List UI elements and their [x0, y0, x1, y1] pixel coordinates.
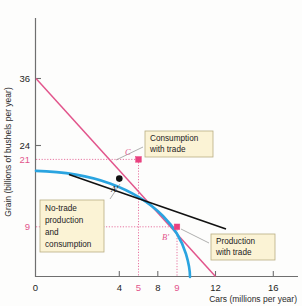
annotation-no-trade-line-4: consumption	[45, 240, 92, 249]
chart-canvas: C A' B' 36 24 21 9 0 4 5 8 9 12 16 Cars …	[0, 0, 302, 306]
annotation-no-trade-line-3: and	[45, 228, 59, 237]
x-tick-label-12: 12	[210, 282, 221, 293]
y-tick-label-24: 24	[19, 140, 30, 151]
annotation-production-line-2: with trade	[215, 248, 252, 257]
point-label-A-prime: A'	[110, 184, 118, 194]
annotation-no-trade-line-2: production	[45, 216, 84, 225]
y-tick-marks	[36, 79, 42, 146]
x-tick-label-4: 4	[117, 282, 122, 293]
y-tick-label-9: 9	[25, 221, 30, 232]
point-label-C: C	[125, 147, 131, 157]
annotation-no-trade[interactable]: No-trade production and consumption	[40, 200, 104, 252]
x-tick-label-5: 5	[136, 282, 141, 293]
x-tick-label-16: 16	[268, 282, 279, 293]
data-point-markers	[116, 157, 180, 230]
annotation-consumption-line-2: with trade	[149, 145, 186, 154]
annotation-consumption-line-1: Consumption	[150, 134, 199, 143]
ppf-trade-chart: C A' B' 36 24 21 9 0 4 5 8 9 12 16 Cars …	[0, 0, 302, 306]
annotation-no-trade-line-1: No-trade	[45, 204, 77, 213]
annotation-consumption-with-trade[interactable]: Consumption with trade	[145, 131, 213, 157]
point-label-B-prime: B'	[162, 232, 169, 242]
y-tick-label-36: 36	[19, 73, 30, 84]
marker-point-A-prime[interactable]	[116, 175, 123, 182]
leader-production	[181, 229, 209, 243]
x-axis-title: Cars (millions per year)	[209, 294, 297, 304]
y-axis-title: Grain (billions of bushels per year)	[3, 87, 13, 217]
x-tick-label-0: 0	[33, 282, 38, 293]
annotation-production-line-1: Production	[216, 237, 256, 246]
x-tick-label-8: 8	[155, 282, 160, 293]
y-tick-label-21: 21	[19, 154, 30, 165]
marker-point-C[interactable]	[136, 157, 142, 163]
x-tick-marks	[119, 271, 273, 277]
leader-lines	[110, 147, 209, 243]
marker-point-B-prime[interactable]	[174, 224, 180, 230]
annotation-production-with-trade[interactable]: Production with trade	[211, 234, 275, 260]
x-tick-label-9: 9	[174, 282, 179, 293]
